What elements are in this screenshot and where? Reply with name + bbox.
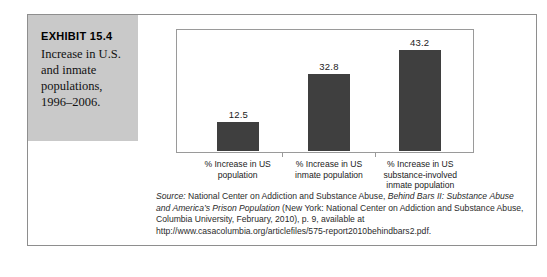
axis-tick: [282, 153, 283, 157]
source-label: Source:: [156, 191, 186, 201]
exhibit-figure: EXHIBIT 15.4 Increase in U.S. and inmate…: [27, 14, 537, 246]
bar-group-inmate-population: 32.8: [284, 34, 375, 151]
exhibit-description: Increase in U.S. and inmate populations,…: [41, 46, 126, 110]
plot-area: 12.5 32.8 43.2: [193, 34, 465, 151]
category-label-line: % Increase in US: [377, 159, 464, 170]
source-title-part1: Behind Bars II: Substance: [388, 191, 487, 201]
category-label-line: % Increase in US: [285, 159, 372, 170]
x-axis-category-labels: % Increase in US population % Increase i…: [192, 159, 466, 191]
category-label-inmate-population: % Increase in US inmate population: [283, 159, 374, 191]
bar-us-population: [217, 122, 259, 151]
bars-row: 12.5 32.8 43.2: [193, 34, 465, 151]
bar-substance-involved-inmate-population: [399, 50, 441, 151]
category-label-line: % Increase in US: [194, 159, 281, 170]
bar-inmate-population: [308, 74, 350, 151]
bar-group-us-population: 12.5: [193, 34, 284, 151]
bar-value-label: 12.5: [229, 109, 248, 120]
axis-tick: [375, 153, 376, 157]
bar-value-label: 43.2: [410, 37, 429, 48]
source-note: Source: National Center on Addiction and…: [156, 191, 526, 237]
bar-value-label: 32.8: [319, 61, 338, 72]
x-axis-ticks: [176, 153, 474, 158]
bar-chart: 12.5 32.8 43.2: [176, 29, 516, 194]
category-label-line: inmate population: [285, 170, 372, 181]
source-publisher: National Center on Addiction and Substan…: [186, 191, 388, 201]
category-label-line: inmate population: [377, 180, 464, 191]
category-label-line: population: [194, 170, 281, 181]
category-label-us-population: % Increase in US population: [192, 159, 283, 191]
bar-group-substance-involved-inmate-population: 43.2: [374, 34, 465, 151]
exhibit-number: EXHIBIT 15.4: [41, 29, 126, 43]
exhibit-caption-panel: EXHIBIT 15.4 Increase in U.S. and inmate…: [28, 15, 138, 141]
category-label-line: substance-involved: [377, 170, 464, 181]
category-label-substance-involved-inmate-population: % Increase in US substance-involved inma…: [375, 159, 466, 191]
plot-frame: 12.5 32.8 43.2: [176, 29, 474, 153]
